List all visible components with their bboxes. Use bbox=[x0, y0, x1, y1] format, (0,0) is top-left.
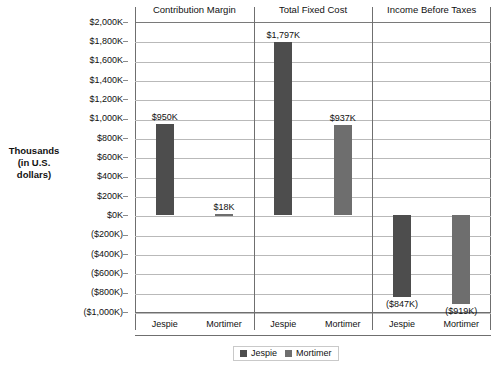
gridline bbox=[135, 216, 491, 217]
axis-bottom-outer bbox=[135, 335, 491, 336]
y-axis-tick-mark bbox=[123, 61, 128, 62]
y-axis-tick-label: ($1,000K) bbox=[83, 308, 123, 317]
legend-label: Mortimer bbox=[296, 349, 332, 358]
bar bbox=[393, 215, 411, 297]
y-axis-tick-mark bbox=[123, 235, 128, 236]
bar bbox=[215, 214, 233, 217]
plot-area bbox=[135, 22, 491, 312]
gridline bbox=[135, 178, 491, 179]
y-axis-title: Thousands (in U.S. dollars) bbox=[0, 145, 68, 181]
gridline bbox=[135, 42, 491, 43]
bar bbox=[334, 125, 352, 216]
gridline bbox=[135, 255, 491, 256]
gridline bbox=[135, 81, 491, 82]
y-axis-tick-label: $1,200K bbox=[89, 95, 123, 104]
y-axis-tick-mark bbox=[123, 293, 128, 294]
y-axis-tick-mark bbox=[123, 215, 128, 216]
y-axis-tick-mark bbox=[123, 99, 128, 100]
y-axis-tick-label: $1,800K bbox=[89, 37, 123, 46]
bar bbox=[274, 42, 292, 216]
panel-title: Income Before Taxes bbox=[372, 4, 491, 15]
y-axis-tick-label: ($800K) bbox=[91, 288, 123, 297]
y-axis-tick-mark bbox=[123, 119, 128, 120]
axis-left bbox=[135, 7, 136, 330]
x-axis-category-label: Mortimer bbox=[313, 319, 372, 330]
x-axis-category-label: Mortimer bbox=[194, 319, 253, 330]
y-axis-tick-label: $400K bbox=[97, 172, 123, 181]
legend-label: Jespie bbox=[251, 349, 277, 358]
legend-swatch-icon bbox=[285, 350, 292, 357]
legend-item[interactable]: Mortimer bbox=[285, 349, 332, 358]
x-axis-category-label: Jespie bbox=[372, 319, 431, 330]
axis-right bbox=[490, 7, 491, 330]
y-axis-tick-mark bbox=[123, 157, 128, 158]
y-axis-tick-label: ($200K) bbox=[91, 230, 123, 239]
bar-value-label: ($847K) bbox=[372, 299, 432, 309]
y-axis-tick-label: $600K bbox=[97, 153, 123, 162]
gridline bbox=[135, 158, 491, 159]
bar-value-label: $1,797K bbox=[253, 30, 313, 40]
gridline bbox=[135, 139, 491, 140]
y-axis-tick-label: $1,000K bbox=[89, 114, 123, 123]
y-axis-tick-label: ($600K) bbox=[91, 269, 123, 278]
y-axis-tick-mark bbox=[123, 177, 128, 178]
legend-item[interactable]: Jespie bbox=[240, 349, 277, 358]
gridline bbox=[135, 62, 491, 63]
y-axis-title-line2: (in U.S. dollars) bbox=[0, 157, 68, 181]
gridline bbox=[135, 236, 491, 237]
gridline bbox=[135, 197, 491, 198]
y-axis-tick-mark bbox=[123, 196, 128, 197]
y-axis-tick-label: $800K bbox=[97, 134, 123, 143]
panel-title: Total Fixed Cost bbox=[254, 4, 373, 15]
bar bbox=[156, 124, 174, 216]
chart-legend: JespieMortimer bbox=[233, 346, 339, 361]
bar-value-label: $937K bbox=[313, 113, 373, 123]
y-axis-title-line1: Thousands bbox=[0, 145, 68, 157]
gridline bbox=[135, 274, 491, 275]
bar-chart: Thousands (in U.S. dollars) $2,000K$1,80… bbox=[0, 0, 499, 367]
legend-swatch-icon bbox=[240, 350, 247, 357]
x-axis-category-label: Jespie bbox=[254, 319, 313, 330]
y-axis-tick-mark bbox=[123, 138, 128, 139]
bar-value-label: $18K bbox=[194, 202, 254, 212]
y-axis-tick-mark bbox=[123, 312, 128, 313]
x-axis-category-label: Jespie bbox=[135, 319, 194, 330]
y-axis-tick-label: $2,000K bbox=[89, 18, 123, 27]
y-axis-tick-label: $1,400K bbox=[89, 76, 123, 85]
gridline bbox=[135, 100, 491, 101]
y-axis-tick-labels: $2,000K$1,800K$1,600K$1,400K$1,200K$1,00… bbox=[60, 22, 128, 312]
panel-divider bbox=[254, 7, 255, 330]
y-axis-tick-mark bbox=[123, 22, 128, 23]
y-axis-tick-label: ($400K) bbox=[91, 250, 123, 259]
bar-value-label: ($919K) bbox=[431, 306, 491, 316]
gridline bbox=[135, 294, 491, 295]
y-axis-tick-mark bbox=[123, 80, 128, 81]
bar bbox=[452, 215, 470, 304]
y-axis-tick-label: $0K bbox=[107, 211, 123, 220]
y-axis-tick-label: $1,600K bbox=[89, 56, 123, 65]
bar-value-label: $950K bbox=[135, 112, 195, 122]
y-axis-tick-mark bbox=[123, 254, 128, 255]
panel-divider bbox=[372, 7, 373, 330]
x-axis-category-label: Mortimer bbox=[432, 319, 491, 330]
y-axis-tick-mark bbox=[123, 273, 128, 274]
y-axis-tick-label: $200K bbox=[97, 192, 123, 201]
panel-title: Contribution Margin bbox=[135, 4, 254, 15]
y-axis-tick-mark bbox=[123, 41, 128, 42]
